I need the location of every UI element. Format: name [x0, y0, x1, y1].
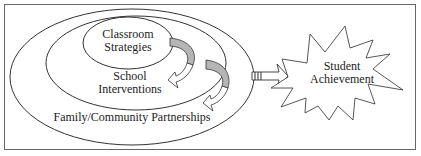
outcome-label-line2: Achievement	[310, 72, 375, 86]
middle-label-line2: Interventions	[98, 82, 162, 96]
inner-label-line1: Classroom	[102, 27, 154, 41]
diagram-canvas: Classroom Strategies School Intervention…	[0, 0, 421, 156]
inner-label-line2: Strategies	[104, 40, 152, 54]
middle-label-line1: School	[113, 69, 147, 83]
curved-arrow-icon	[168, 38, 194, 88]
outer-label: Family/Community Partnerships	[53, 110, 210, 124]
outcome-label-line1: Student	[324, 59, 361, 73]
